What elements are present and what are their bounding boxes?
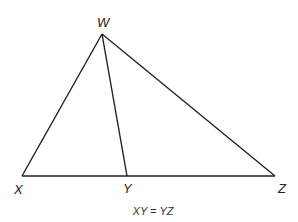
segment-wz: [102, 34, 275, 176]
vertex-label-w: W: [97, 15, 111, 30]
triangle-diagram: W X Y Z XY = YZ: [0, 0, 298, 222]
segment-wx: [22, 34, 102, 176]
segment-wy: [102, 34, 127, 176]
caption: XY = YZ: [132, 205, 175, 217]
vertex-label-y: Y: [123, 181, 133, 196]
vertex-label-z: Z: [277, 181, 287, 196]
vertex-label-x: X: [13, 182, 24, 197]
